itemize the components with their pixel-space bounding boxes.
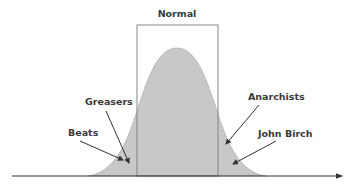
label-beats: Beats	[68, 127, 99, 138]
diagram-title: Normal	[158, 8, 197, 19]
arrow-beats	[80, 141, 123, 160]
label-john-birch: John Birch	[257, 128, 313, 139]
label-anarchists: Anarchists	[248, 91, 305, 102]
arrow-john-birch	[233, 141, 276, 164]
arrow-greasers	[106, 111, 129, 163]
normal-distribution-diagram: Normal Greasers Beats Anarchists John Bi…	[0, 0, 354, 189]
label-greasers: Greasers	[85, 96, 133, 107]
arrow-anarchists	[226, 105, 259, 144]
